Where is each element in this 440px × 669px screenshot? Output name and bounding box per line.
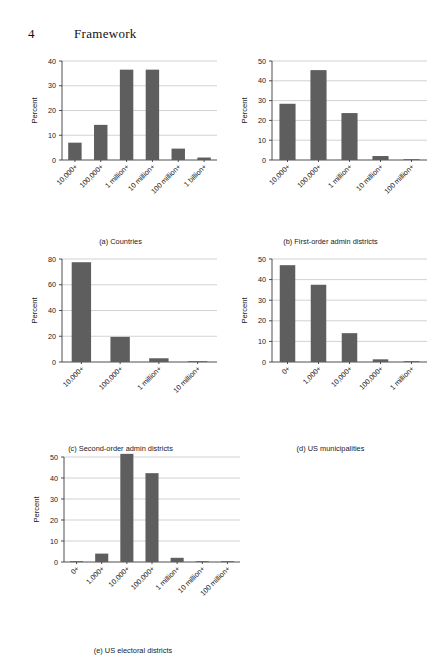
chart-panel-b: 01020304050Percent10,000+100,000+1 milli… bbox=[228, 52, 433, 224]
panel-caption-a: (a) Countries bbox=[18, 237, 223, 246]
x-category-label: 1 million+ bbox=[135, 364, 163, 392]
bar bbox=[403, 159, 419, 160]
plot-area-d: 01020304050Percent0+1,000+10,000+100,000… bbox=[228, 250, 433, 420]
y-axis-title: Percent bbox=[30, 97, 39, 124]
chart-svg-b: 01020304050Percent10,000+100,000+1 milli… bbox=[228, 52, 433, 218]
x-category-label: 1 million+ bbox=[388, 364, 416, 392]
x-category-label: 100,000+ bbox=[97, 364, 125, 392]
x-category-label: 10,000+ bbox=[267, 162, 292, 187]
y-axis-title: Percent bbox=[240, 297, 249, 324]
x-category-label: 1 billion+ bbox=[182, 162, 209, 189]
bar bbox=[70, 561, 83, 562]
bar bbox=[196, 561, 209, 562]
y-tick-label: 30 bbox=[258, 296, 266, 305]
bar bbox=[280, 265, 296, 362]
bar bbox=[146, 70, 159, 160]
y-tick-label: 0 bbox=[52, 358, 56, 367]
x-category-label: 100,000+ bbox=[295, 162, 323, 190]
bar bbox=[95, 554, 108, 562]
x-category-label: 1,000+ bbox=[84, 564, 106, 586]
y-tick-label: 20 bbox=[50, 516, 58, 525]
chart-svg-c: 020406080Percent10,000+100,000+1 million… bbox=[18, 250, 223, 420]
panel-caption-d: (d) US municipalities bbox=[228, 444, 433, 453]
y-tick-label: 40 bbox=[50, 474, 58, 483]
bar bbox=[68, 143, 81, 160]
bar bbox=[341, 113, 357, 160]
x-category-label: 100,000+ bbox=[129, 564, 157, 592]
panel-caption-b: (b) First-order admin districts bbox=[228, 237, 433, 246]
bar bbox=[372, 156, 388, 160]
bar bbox=[221, 561, 234, 562]
y-tick-label: 20 bbox=[48, 332, 56, 341]
bar bbox=[373, 359, 389, 362]
y-tick-label: 50 bbox=[258, 57, 266, 66]
x-category-label: 10,000+ bbox=[329, 364, 354, 389]
y-axis-title: Percent bbox=[240, 97, 249, 124]
bar bbox=[342, 333, 358, 362]
chapter-title: Framework bbox=[74, 26, 137, 42]
bar bbox=[172, 149, 185, 160]
bar bbox=[149, 358, 168, 362]
y-tick-label: 20 bbox=[258, 316, 266, 325]
y-tick-label: 30 bbox=[48, 81, 56, 90]
bar bbox=[145, 473, 158, 562]
y-tick-label: 0 bbox=[54, 558, 58, 567]
plot-area-e: 01020304050Percent0+1,000+10,000+100,000… bbox=[18, 448, 248, 620]
bar bbox=[120, 70, 133, 160]
y-tick-label: 30 bbox=[50, 495, 58, 504]
chart-panel-a: 010203040Percent10,000+100,000+1 million… bbox=[18, 52, 223, 224]
y-tick-label: 60 bbox=[48, 280, 56, 289]
chart-panel-c: 020406080Percent10,000+100,000+1 million… bbox=[18, 250, 223, 428]
y-tick-label: 0 bbox=[52, 156, 56, 165]
chart-panel-e: 01020304050Percent0+1,000+10,000+100,000… bbox=[18, 448, 248, 628]
x-category-label: 0+ bbox=[280, 364, 292, 376]
x-category-label: 10 million+ bbox=[354, 162, 385, 193]
y-tick-label: 40 bbox=[258, 275, 266, 284]
bar bbox=[120, 454, 133, 562]
y-axis-title: Percent bbox=[32, 496, 41, 523]
x-category-label: 0+ bbox=[69, 564, 81, 576]
y-tick-label: 10 bbox=[258, 337, 266, 346]
bar bbox=[171, 558, 184, 562]
bar bbox=[72, 262, 91, 362]
chart-panel-d: 01020304050Percent0+1,000+10,000+100,000… bbox=[228, 250, 433, 428]
y-tick-label: 10 bbox=[50, 537, 58, 546]
x-category-label: 10,000+ bbox=[61, 364, 86, 389]
plot-area-c: 020406080Percent10,000+100,000+1 million… bbox=[18, 250, 223, 420]
y-tick-label: 80 bbox=[48, 255, 56, 264]
y-tick-label: 30 bbox=[258, 96, 266, 105]
bar bbox=[188, 361, 207, 362]
y-tick-label: 0 bbox=[262, 156, 266, 165]
y-tick-label: 50 bbox=[258, 255, 266, 264]
page-number: 4 bbox=[28, 26, 74, 42]
y-tick-label: 10 bbox=[258, 136, 266, 145]
page-header: 4Framework bbox=[28, 26, 412, 46]
chart-svg-e: 01020304050Percent0+1,000+10,000+100,000… bbox=[18, 448, 248, 620]
plot-area-a: 010203040Percent10,000+100,000+1 million… bbox=[18, 52, 223, 218]
y-tick-label: 20 bbox=[258, 116, 266, 125]
chart-svg-d: 01020304050Percent0+1,000+10,000+100,000… bbox=[228, 250, 433, 420]
y-tick-label: 20 bbox=[48, 106, 56, 115]
x-category-label: 10 million+ bbox=[171, 364, 202, 395]
y-tick-label: 40 bbox=[48, 306, 56, 315]
y-tick-label: 0 bbox=[262, 358, 266, 367]
x-category-label: 100 million+ bbox=[382, 162, 416, 196]
chart-svg-a: 010203040Percent10,000+100,000+1 million… bbox=[18, 52, 223, 218]
bar bbox=[279, 104, 295, 160]
y-axis-title: Percent bbox=[30, 297, 39, 324]
bar bbox=[311, 285, 327, 362]
x-category-label: 100,000+ bbox=[357, 364, 385, 392]
plot-area-b: 01020304050Percent10,000+100,000+1 milli… bbox=[228, 52, 433, 218]
bar bbox=[404, 361, 420, 362]
x-category-label: 10,000+ bbox=[54, 162, 79, 187]
y-tick-label: 40 bbox=[48, 57, 56, 66]
x-category-label: 1,000+ bbox=[301, 364, 323, 386]
bar bbox=[197, 158, 210, 160]
x-category-label: 100,000+ bbox=[77, 162, 105, 190]
bar bbox=[94, 125, 107, 160]
bar bbox=[310, 70, 326, 160]
y-tick-label: 10 bbox=[48, 131, 56, 140]
bar bbox=[110, 337, 129, 362]
panel-caption-e: (e) US electoral districts bbox=[18, 646, 248, 655]
x-category-label: 1 million+ bbox=[326, 162, 354, 190]
